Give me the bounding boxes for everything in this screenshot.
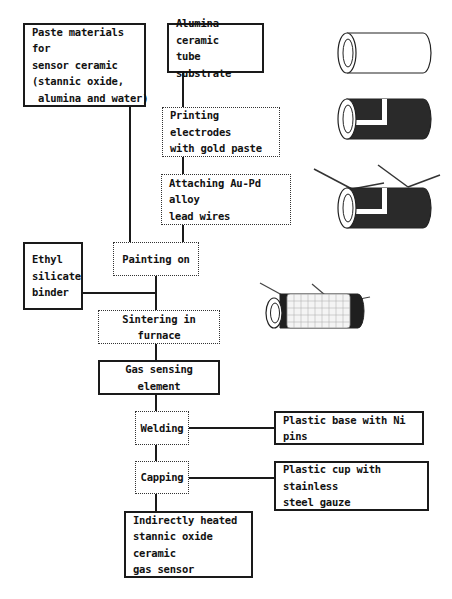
node-plastic-base: Plastic base with Ni pins [274, 411, 424, 445]
connector-cup-to-capping [189, 477, 274, 479]
tube-with-lead-wires-icon [310, 165, 452, 235]
connector-welding-to-capping [155, 445, 157, 461]
tube-with-gold-electrodes-icon [330, 96, 445, 146]
connector-base-to-welding [189, 427, 274, 429]
node-sintering: Sintering in furnace [98, 310, 220, 344]
node-gas-sensing-element: Gas sensing element [98, 360, 220, 395]
node-final-sensor: Indirectly heated stannic oxide ceramic … [124, 511, 253, 578]
node-printing-electrodes: Printing electrodes with gold paste [162, 107, 280, 157]
connector-ethyl-to-main [83, 292, 156, 294]
node-capping: Capping [135, 461, 189, 494]
node-attaching-wires: Attaching Au-Pd alloy lead wires [161, 174, 291, 225]
connector-sintering-to-element [155, 344, 157, 360]
connector-element-to-welding [155, 395, 157, 411]
connector-printing-to-attaching [182, 157, 184, 174]
node-painting-on: Painting on [113, 242, 199, 276]
tube-with-heater-coil-icon [250, 280, 370, 340]
node-plastic-cup: Plastic cup with stainless steel gauze [274, 461, 429, 511]
connector-capping-to-sensor [155, 494, 157, 511]
connector-attaching-to-painting [182, 225, 184, 242]
process-flow-diagram: Paste materials for sensor ceramic (stan… [0, 0, 452, 599]
bare-alumina-tube-icon [330, 30, 445, 80]
node-ethyl-binder: Ethyl silicate binder [23, 242, 83, 310]
node-welding: Welding [135, 411, 189, 445]
node-alumina-tube: Alumina ceramic tube substrate [167, 23, 264, 73]
node-paste-materials: Paste materials for sensor ceramic (stan… [23, 23, 146, 107]
connector-paste-to-painting [129, 107, 131, 250]
